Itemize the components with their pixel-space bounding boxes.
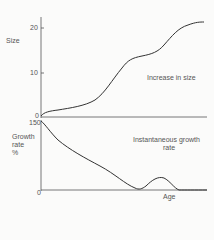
bottom-y-label-1: Growth <box>12 133 35 141</box>
bottom-y-label-3: % <box>12 149 18 157</box>
size-curve <box>41 22 204 116</box>
tick-20: 20 <box>30 24 38 32</box>
bottom-annotation-2: rate <box>163 144 175 152</box>
x-axis-label: Age <box>163 193 175 201</box>
growth-rate-curve <box>41 121 207 190</box>
bottom-y-label-2: rate <box>12 141 24 149</box>
top-y-label: Size <box>6 37 20 45</box>
tick-150: 150 <box>29 119 41 127</box>
tick-10: 10 <box>30 69 38 77</box>
bottom-annotation-1: Instantaneous growth <box>133 136 200 144</box>
tick-0-bottom: 0 <box>37 189 41 197</box>
top-annotation: Increase in size <box>147 74 196 82</box>
